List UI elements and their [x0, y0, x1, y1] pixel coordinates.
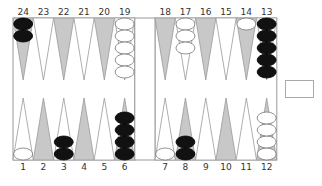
backgammon-board[interactable]: 242322212019181716151413123456789101112	[0, 0, 322, 186]
black-checker[interactable]	[257, 18, 276, 30]
point-label: 11	[241, 162, 252, 172]
point-label: 10	[220, 162, 232, 172]
point-label: 9	[203, 162, 209, 172]
point-label: 17	[180, 7, 191, 17]
white-checker[interactable]	[115, 66, 134, 78]
point-label: 15	[220, 7, 231, 17]
point-label: 8	[183, 162, 189, 172]
black-checker[interactable]	[115, 148, 134, 160]
point-label: 23	[38, 7, 49, 17]
point-label: 4	[81, 162, 87, 172]
point-label: 7	[162, 162, 168, 172]
black-checker[interactable]	[257, 42, 276, 54]
point-label: 6	[122, 162, 128, 172]
point-label: 12	[261, 162, 272, 172]
point-label: 19	[119, 7, 131, 17]
point-label: 24	[17, 7, 29, 17]
white-checker[interactable]	[257, 136, 276, 148]
black-checker[interactable]	[115, 124, 134, 136]
black-checker[interactable]	[14, 30, 33, 42]
white-checker[interactable]	[257, 112, 276, 124]
point-label: 5	[101, 162, 107, 172]
white-checker[interactable]	[14, 148, 33, 160]
white-checker[interactable]	[176, 42, 195, 54]
white-checker[interactable]	[257, 124, 276, 136]
point-label: 20	[99, 7, 111, 17]
black-checker[interactable]	[257, 66, 276, 78]
white-checker[interactable]	[115, 18, 134, 30]
white-checker[interactable]	[176, 30, 195, 42]
black-checker[interactable]	[176, 136, 195, 148]
point-label: 21	[78, 7, 89, 17]
doubling-cube[interactable]	[285, 80, 314, 98]
point-label: 3	[61, 162, 67, 172]
point-label: 14	[241, 7, 253, 17]
point-label: 13	[261, 7, 272, 17]
bar[interactable]	[135, 18, 155, 160]
black-checker[interactable]	[257, 54, 276, 66]
point-label: 16	[200, 7, 212, 17]
black-checker[interactable]	[54, 148, 73, 160]
white-checker[interactable]	[115, 54, 134, 66]
white-checker[interactable]	[156, 148, 175, 160]
point-label: 2	[41, 162, 47, 172]
black-checker[interactable]	[115, 136, 134, 148]
black-checker[interactable]	[14, 18, 33, 30]
white-checker[interactable]	[115, 42, 134, 54]
point-19[interactable]	[115, 18, 135, 80]
point-label: 18	[159, 7, 171, 17]
black-checker[interactable]	[115, 112, 134, 124]
black-checker[interactable]	[257, 30, 276, 42]
point-label: 1	[20, 162, 26, 172]
black-checker[interactable]	[54, 136, 73, 148]
black-checker[interactable]	[176, 148, 195, 160]
white-checker[interactable]	[176, 18, 195, 30]
white-checker[interactable]	[115, 30, 134, 42]
point-label: 22	[58, 7, 69, 17]
point-13[interactable]	[257, 18, 277, 80]
white-checker[interactable]	[237, 18, 256, 30]
white-checker[interactable]	[257, 148, 276, 160]
